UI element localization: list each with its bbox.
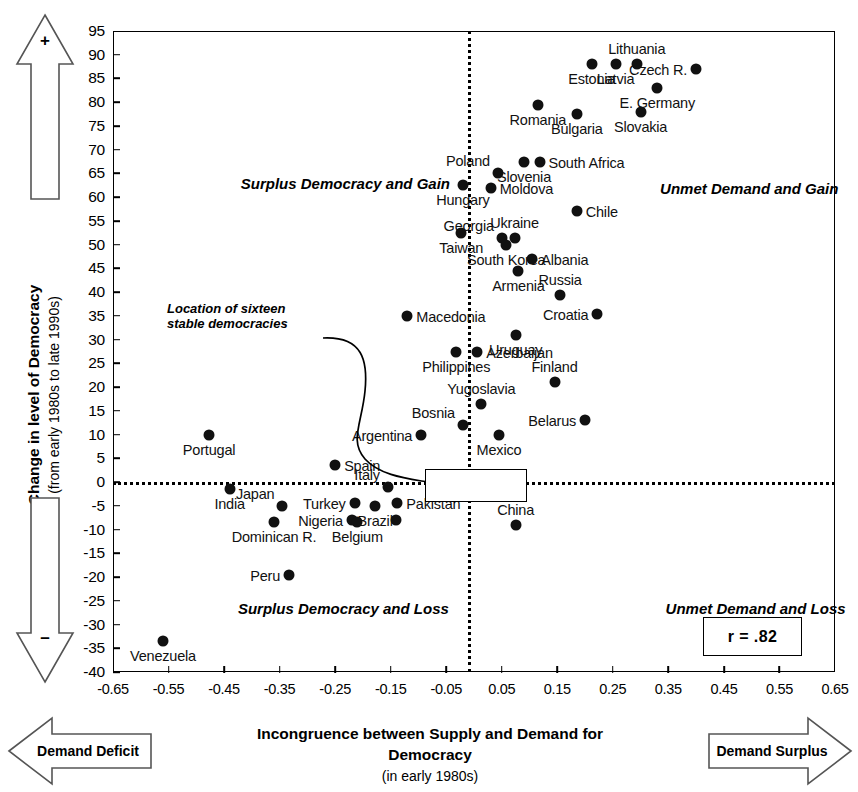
demand-surplus-label: Demand Surplus — [716, 743, 827, 759]
y-tick-label: 50 — [71, 236, 105, 254]
y-tick-label: -30 — [71, 616, 105, 634]
y-tick-label: -10 — [71, 521, 105, 539]
x-axis-title-main: Incongruence between Supply and Demand f… — [257, 725, 603, 763]
stable-democracies-annotation: Location of sixteen stable democracies — [167, 301, 288, 332]
y-tick-label: 25 — [71, 354, 105, 372]
y-tick-label: 15 — [71, 402, 105, 420]
x-tick-label: 0.55 — [749, 681, 809, 697]
y-tick-label: 0 — [71, 473, 105, 491]
x-tick-label: -0.15 — [361, 681, 421, 697]
y-tick-label: 20 — [71, 378, 105, 396]
y-tick-label: 55 — [71, 212, 105, 230]
y-tick-label: 80 — [71, 93, 105, 111]
y-negative-arrow-icon — [14, 495, 76, 685]
stable-democracies-curve — [113, 31, 835, 672]
y-positive-sign: + — [40, 31, 50, 51]
scatter-chart-figure: 95908580757065605550454035302520151050-5… — [0, 0, 858, 792]
y-tick-label: 65 — [71, 164, 105, 182]
x-axis-title-sub: (in early 1980s) — [382, 768, 479, 784]
x-tick-label: 0.35 — [638, 681, 698, 697]
y-tick-label: -40 — [71, 663, 105, 681]
x-tick-label: -0.45 — [194, 681, 254, 697]
correlation-value: r = .82 — [728, 628, 778, 646]
x-tick-label: -0.25 — [305, 681, 365, 697]
x-tick-label: -0.55 — [139, 681, 199, 697]
y-tick-label: 70 — [71, 141, 105, 159]
demand-deficit-label: Demand Deficit — [37, 743, 139, 759]
y-tick-label: 30 — [71, 331, 105, 349]
y-axis-title-main: Change in level of Democracy — [25, 285, 42, 506]
y-tick-label: 40 — [71, 283, 105, 301]
y-tick-label: 45 — [71, 259, 105, 277]
correlation-box: r = .82 — [703, 617, 802, 656]
y-axis-title-sub: (from early 1980s to late 1990s) — [46, 296, 62, 494]
annotation-line-1: Location of sixteen — [167, 301, 288, 316]
x-tick-label: -0.35 — [250, 681, 310, 697]
y-tick-label: -20 — [71, 568, 105, 586]
annotation-line-2: stable democracies — [167, 316, 288, 331]
x-tick-label: -0.65 — [83, 681, 143, 697]
x-tick-label: 0.25 — [583, 681, 643, 697]
y-tick-label: 5 — [71, 449, 105, 467]
y-tick-label: -15 — [71, 544, 105, 562]
x-tick-label: 0.45 — [694, 681, 754, 697]
y-tick-label: -25 — [71, 592, 105, 610]
y-tick-label: 75 — [71, 117, 105, 135]
y-tick-label: -5 — [71, 497, 105, 515]
x-tick-label: -0.05 — [416, 681, 476, 697]
y-tick-label: 90 — [71, 46, 105, 64]
x-tick-label: 0.05 — [472, 681, 532, 697]
y-tick-label: 95 — [71, 22, 105, 40]
y-tick-label: 85 — [71, 69, 105, 87]
stable-democracies-box — [425, 469, 527, 502]
y-negative-sign: – — [40, 628, 49, 648]
x-axis-title: Incongruence between Supply and Demand f… — [230, 724, 630, 787]
x-tick-label: 0.15 — [527, 681, 587, 697]
y-tick-label: 35 — [71, 307, 105, 325]
y-tick-label: -35 — [71, 639, 105, 657]
y-tick-label: 10 — [71, 426, 105, 444]
y-tick-label: 60 — [71, 188, 105, 206]
x-tick-label: 0.65 — [805, 681, 858, 697]
